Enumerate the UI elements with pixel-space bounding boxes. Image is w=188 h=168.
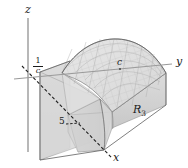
z-intercept-fraction: 1 c — [33, 57, 43, 76]
x-axis-label: x — [113, 152, 119, 163]
x-mark-label-5: 5 — [59, 117, 65, 126]
figure-3d-region-r3: z y x 1 c c 5 R3 — [0, 0, 188, 168]
figure-canvas — [0, 0, 188, 168]
y-mark-label-c: c — [117, 58, 122, 67]
z-intercept-numerator: 1 — [33, 57, 43, 65]
y-axis-label: y — [176, 56, 182, 67]
z-axis-label: z — [25, 4, 31, 15]
z-intercept-denominator: c — [33, 67, 43, 75]
region-label-subscript: 3 — [141, 109, 146, 118]
region-label-r3: R3 — [133, 104, 146, 118]
y-tick-c — [119, 68, 121, 70]
